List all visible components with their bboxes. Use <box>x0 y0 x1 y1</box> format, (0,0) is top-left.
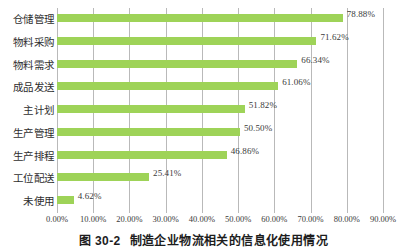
category-axis: 仓储管理物料采购物料需求成品发送主计划生产管理生产排程工位配送未使用 <box>0 8 54 213</box>
bar <box>57 105 245 113</box>
bar-value-label: 4.62% <box>78 191 102 201</box>
bar <box>57 151 227 159</box>
bar <box>57 37 316 45</box>
bar-row: 71.62% <box>57 31 383 54</box>
bar-row: 25.41% <box>57 167 383 190</box>
category-label: 仓储管理 <box>0 11 54 26</box>
bar-value-label: 71.62% <box>320 32 348 42</box>
x-tick-label: 10.00% <box>80 214 106 224</box>
category-label: 未使用 <box>0 193 54 208</box>
x-tick-label: 80.00% <box>334 214 360 224</box>
bar-value-label: 66.34% <box>301 55 329 65</box>
bar-value-label: 61.06% <box>282 77 310 87</box>
x-tick-label: 30.00% <box>153 214 179 224</box>
bar <box>57 173 149 181</box>
x-tick-label: 20.00% <box>116 214 142 224</box>
caption-number: 图 30-2 <box>79 234 121 248</box>
category-label: 物料需求 <box>0 57 54 72</box>
category-label: 物料采购 <box>0 34 54 49</box>
bar-value-label: 25.41% <box>153 168 181 178</box>
plot-area: 78.88%71.62%66.34%61.06%51.82%50.50%46.8… <box>57 8 383 213</box>
x-tick-label: 0.00% <box>46 214 68 224</box>
x-tick-label: 70.00% <box>297 214 323 224</box>
figure: 仓储管理物料采购物料需求成品发送主计划生产管理生产排程工位配送未使用 78.88… <box>0 0 407 249</box>
bar-value-label: 78.88% <box>347 9 375 19</box>
bar-value-label: 51.82% <box>249 100 277 110</box>
bar-value-label: 46.86% <box>231 146 259 156</box>
category-label: 主计划 <box>0 102 54 117</box>
x-tick-label: 60.00% <box>261 214 287 224</box>
bar-series: 78.88%71.62%66.34%61.06%51.82%50.50%46.8… <box>57 8 383 213</box>
x-tick-label: 50.00% <box>225 214 251 224</box>
bar-row: 50.50% <box>57 122 383 145</box>
bar <box>57 82 278 90</box>
bar-row: 4.62% <box>57 190 383 213</box>
bar-chart: 仓储管理物料采购物料需求成品发送主计划生产管理生产排程工位配送未使用 78.88… <box>0 0 407 216</box>
bar-row: 51.82% <box>57 99 383 122</box>
bar <box>57 14 343 22</box>
gridline <box>383 8 384 213</box>
category-label: 生产管理 <box>0 125 54 140</box>
bar-row: 61.06% <box>57 76 383 99</box>
x-tick-label: 40.00% <box>189 214 215 224</box>
caption-text: 制造企业物流相关的信息化使用情况 <box>130 234 328 248</box>
bar <box>57 196 74 204</box>
category-label: 工位配送 <box>0 170 54 185</box>
bar <box>57 128 240 136</box>
bar <box>57 60 297 68</box>
bar-row: 66.34% <box>57 54 383 77</box>
bar-row: 78.88% <box>57 8 383 31</box>
bar-value-label: 50.50% <box>244 123 272 133</box>
category-label: 成品发送 <box>0 79 54 94</box>
bar-row: 46.86% <box>57 145 383 168</box>
category-label: 生产排程 <box>0 148 54 163</box>
x-tick-label: 90.00% <box>370 214 396 224</box>
figure-caption: 图 30-2制造企业物流相关的信息化使用情况 <box>0 231 407 248</box>
x-axis-tick-labels: 0.00%10.00%20.00%30.00%40.00%50.00%60.00… <box>0 214 407 228</box>
